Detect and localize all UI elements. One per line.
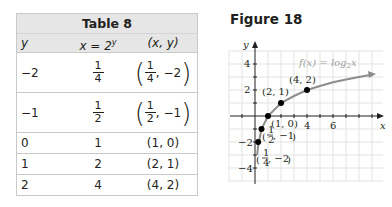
pair-y: , −1 — [273, 130, 294, 141]
y-tick-neg4: −4 — [238, 163, 253, 174]
label-1-0: (1, 0) — [271, 118, 298, 129]
x-tick-6: 6 — [330, 120, 336, 131]
point-4-2 — [304, 87, 310, 93]
pair-y: , −2 — [268, 153, 289, 164]
log-graph: y x 4 6 4 2 −2 −4 f(x) = log2x (4, 2) (2… — [0, 0, 392, 207]
y-tick-neg2: −2 — [238, 137, 253, 148]
x-axis-arrow-icon — [377, 113, 384, 119]
function-label-text: f(x) = log — [298, 57, 347, 68]
right-paren: ) — [292, 131, 296, 142]
y-axis-arrow-icon — [252, 41, 258, 48]
y-tick-2: 2 — [244, 84, 250, 95]
function-label-var: x — [351, 57, 357, 68]
y-tick-4: 4 — [244, 58, 250, 69]
point-2-1 — [278, 100, 284, 106]
right-paren: ) — [287, 154, 291, 165]
left-paren: ( — [256, 154, 260, 165]
left-paren: ( — [262, 131, 266, 142]
y-axis-label: y — [242, 39, 249, 50]
point-quarter — [255, 139, 261, 145]
x-tick-4: 4 — [304, 120, 310, 131]
label-4-2: (4, 2) — [289, 74, 316, 85]
x-axis-label: x — [380, 120, 386, 131]
label-2-1: (2, 1) — [262, 86, 289, 97]
label-quarter-neg2: ( 1 4 , −2 ) — [256, 147, 291, 168]
